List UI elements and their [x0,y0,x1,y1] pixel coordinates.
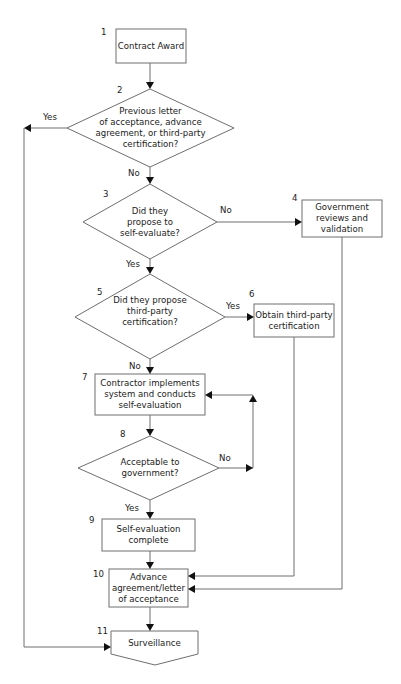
node-2-line-2: of acceptance, advance [99,117,202,128]
node-5-line-2: third-party [127,306,173,317]
arrow-into-8 [146,429,154,436]
arrow-8-no-up [249,395,257,402]
edge-5-yes-label: Yes [226,301,240,311]
node-4-line-3: validation [321,224,363,235]
arrow-into-11-left [104,643,111,651]
flowchart-canvas [0,0,401,684]
edge-5-no-label: No [129,361,141,371]
node-9-line-1: Self-evaluation [117,524,181,535]
node-8-number: 8 [120,429,125,439]
edge-8-yes-label: Yes [125,503,139,513]
node-6-line-1: Obtain third-party [255,310,332,321]
node-5-label: Did they propose third-party certificati… [95,293,205,329]
node-7-label: Contractor implements system and conduct… [95,374,205,415]
arrow-into-7-right [205,391,212,399]
node-2-number: 2 [117,85,122,95]
node-9-label: Self-evaluation complete [102,519,195,551]
node-2-line-4: certification? [123,139,179,150]
arrow-into-9 [146,512,154,519]
edge-2-yes-label: Yes [43,112,57,122]
node-8-label: Acceptable to government? [100,456,200,480]
arrow-into-10-from-4 [188,585,195,593]
node-4-number: 4 [292,193,297,203]
arrow-into-10-from-6 [188,572,195,580]
node-8-line-2: government? [122,468,179,479]
node-7-line-1: Contractor implements [100,378,199,389]
node-1-number: 1 [101,27,106,37]
edge-8-no-label: No [219,453,231,463]
arrow-into-11-top [146,624,154,631]
node-4-line-1: Government [315,202,369,213]
node-1-line-1: Contract Award [118,41,184,52]
arrow-2-yes-left [24,124,31,132]
node-7-line-2: system and conducts [104,389,196,400]
node-4-line-2: reviews and [316,213,368,224]
arrow-into-6 [247,313,254,321]
edge-2-yes-down [24,128,104,647]
node-6-number: 6 [249,289,254,299]
node-10-line-3: of acceptance [118,594,179,605]
node-8-line-1: Acceptable to [120,457,179,468]
node-2-line-3: agreement, or third-party [96,128,206,139]
arrow-8-no-right [246,464,253,472]
node-10-line-1: Advance [130,572,167,583]
node-3-label: Did they propose to self-evaluate? [100,204,200,240]
node-5-line-3: certification? [122,317,178,328]
node-4-label: Government reviews and validation [302,200,382,237]
node-9-line-2: complete [128,535,168,546]
node-1-label: Contract Award [116,29,186,63]
node-10-number: 10 [93,569,104,579]
node-7-number: 7 [82,372,87,382]
edge-3-no-label: No [220,205,232,215]
arrow-into-10-top [146,562,154,569]
edge-2-no-label: No [128,168,140,178]
node-3-line-3: self-evaluate? [120,228,180,239]
node-10-label: Advance agreement/letter of acceptance [109,569,188,607]
edge-3-yes-label: Yes [126,259,140,269]
arrow-into-3 [146,177,154,184]
node-11-number: 11 [97,626,108,636]
arrow-into-4 [295,218,302,226]
node-10-line-2: agreement/letter [112,583,185,594]
edge-6-to-10 [194,337,294,576]
node-3-line-2: propose to [127,217,173,228]
node-11-line-1: Surveillance [128,638,181,649]
node-3-number: 3 [103,189,108,199]
node-7-line-3: self-evaluation [118,400,181,411]
edge-4-to-10 [194,237,342,589]
node-3-line-1: Did they [132,206,168,217]
arrow-into-7 [146,367,154,374]
node-6-line-2: certification [268,321,319,332]
node-2-label: Previous letter of acceptance, advance a… [80,104,221,152]
node-6-label: Obtain third-party certification [254,304,334,337]
arrow-into-2 [146,82,154,89]
arrow-into-5 [146,267,154,274]
node-2-line-1: Previous letter [119,106,181,117]
node-9-number: 9 [89,515,94,525]
node-5-line-1: Did they propose [113,295,187,306]
node-11-label: Surveillance [111,636,198,650]
